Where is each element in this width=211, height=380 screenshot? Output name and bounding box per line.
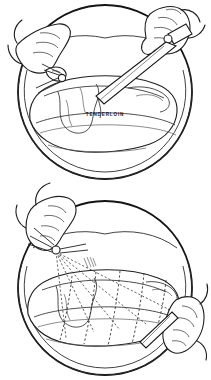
tenderloin-label: TENDERLOIN <box>86 112 124 117</box>
illustration-figure: TENDERLOIN <box>0 0 211 380</box>
carving-illustration-svg: TENDERLOIN <box>0 0 211 380</box>
